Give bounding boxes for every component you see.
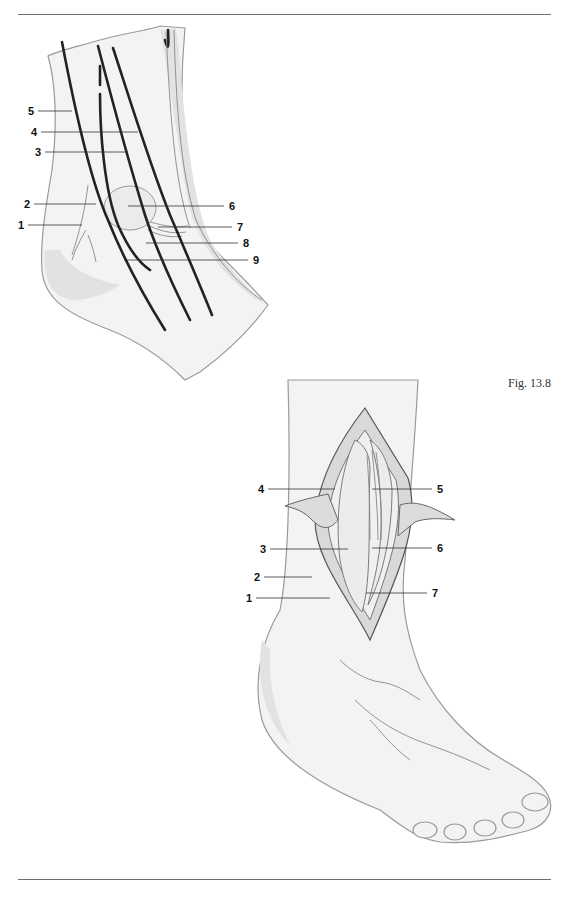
label-top-6: 6 (229, 200, 235, 212)
label-bottom-5: 5 (437, 483, 443, 495)
label-bottom-4: 4 (258, 483, 265, 495)
label-bottom-2: 2 (254, 571, 260, 583)
label-top-4: 4 (31, 126, 38, 138)
figure-caption: Fig. 13.8 (508, 376, 551, 391)
label-top-3: 3 (35, 146, 41, 158)
figure-bottom-ankle-anterior (258, 380, 551, 843)
label-bottom-6: 6 (437, 542, 443, 554)
label-bottom-7: 7 (432, 587, 438, 599)
label-top-7: 7 (237, 221, 243, 233)
label-bottom-3: 3 (260, 543, 266, 555)
label-top-5: 5 (28, 105, 34, 117)
label-top-9: 9 (253, 254, 259, 266)
label-top-2: 2 (24, 198, 30, 210)
label-top-8: 8 (243, 237, 249, 249)
anatomical-illustrations: 5 4 3 2 1 6 7 8 9 (0, 0, 573, 897)
label-top-1: 1 (18, 219, 24, 231)
label-bottom-1: 1 (246, 592, 252, 604)
